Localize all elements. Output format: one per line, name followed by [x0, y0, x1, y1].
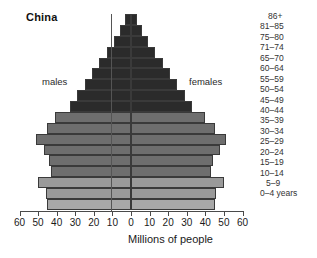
- age-group-label: 71–74: [246, 42, 316, 52]
- x-axis-tick-label: 50: [33, 217, 44, 228]
- age-group-label: 75–80: [246, 32, 316, 42]
- age-group-label: 0–4 years: [246, 188, 316, 198]
- bar-female: [131, 145, 220, 156]
- bar-female: [131, 79, 177, 90]
- bar-female: [131, 90, 185, 101]
- x-axis-tick-label: 20: [163, 217, 174, 228]
- age-group-label: 40–44: [246, 105, 316, 115]
- pyramid-row: [20, 68, 243, 79]
- pyramid-row: [20, 145, 243, 156]
- bar-male: [77, 90, 131, 101]
- age-group-label: 55–59: [246, 74, 316, 84]
- bar-male: [55, 112, 131, 123]
- x-axis-tick-label: 0: [128, 217, 134, 228]
- bar-female: [131, 25, 142, 36]
- bar-female: [131, 134, 226, 145]
- center-axis-line: [111, 14, 112, 211]
- bar-female: [131, 68, 170, 79]
- pyramid-row: [20, 101, 243, 112]
- pyramid-row: [20, 155, 243, 166]
- bar-female: [131, 123, 215, 134]
- age-group-label: 35–39: [246, 115, 316, 125]
- x-axis-tick-label: 50: [218, 217, 229, 228]
- age-group-label: 20–24: [246, 147, 316, 157]
- x-axis-tick: [187, 211, 188, 216]
- x-axis-title-text: Millions of people: [104, 233, 213, 245]
- pyramid-row: [20, 14, 243, 25]
- x-axis-tick-label: 10: [144, 217, 155, 228]
- bar-female: [131, 14, 137, 25]
- age-group-label: 81–85: [246, 21, 316, 31]
- age-group-label: 15–19: [246, 157, 316, 167]
- x-axis-tick: [57, 211, 58, 216]
- bar-male: [85, 79, 131, 90]
- age-group-labels: 86+81–8575–8071–7465–7060–6455–5950–5445…: [246, 11, 316, 199]
- x-axis-tick-label: 20: [88, 217, 99, 228]
- bar-female: [131, 188, 216, 199]
- pyramid-row: [20, 58, 243, 69]
- bar-female: [131, 166, 211, 177]
- x-axis-tick-label: 30: [181, 217, 192, 228]
- bar-male: [114, 36, 131, 47]
- x-axis-tick: [38, 211, 39, 216]
- bar-female: [131, 199, 215, 210]
- pyramid-row: [20, 166, 243, 177]
- bar-male: [47, 123, 131, 134]
- pyramid-row: [20, 199, 243, 210]
- age-group-label: 50–54: [246, 84, 316, 94]
- bar-female: [131, 36, 148, 47]
- x-axis-tick-label: 40: [51, 217, 62, 228]
- age-group-label: 30–34: [246, 126, 316, 136]
- age-group-label: 86+: [246, 11, 316, 21]
- pyramid-row: [20, 90, 243, 101]
- x-axis-tick: [205, 211, 206, 216]
- x-axis-tick-label: 40: [200, 217, 211, 228]
- x-axis-tick-label: 30: [70, 217, 81, 228]
- bar-male: [51, 166, 131, 177]
- bar-female: [131, 58, 163, 69]
- bar-female: [131, 155, 213, 166]
- bar-female: [131, 177, 224, 188]
- x-axis-tick: [131, 211, 132, 216]
- pyramid-row: [20, 112, 243, 123]
- bar-male: [70, 101, 131, 112]
- pyramid-row: [20, 36, 243, 47]
- pyramid-row: [20, 79, 243, 90]
- age-group-label: 25–29: [246, 136, 316, 146]
- x-axis-tick: [20, 211, 21, 216]
- bar-male: [120, 25, 131, 36]
- x-axis-tick-label: 10: [107, 217, 118, 228]
- bar-male: [36, 134, 131, 145]
- pyramid-row: [20, 188, 243, 199]
- pyramid-row: [20, 134, 243, 145]
- bar-female: [131, 101, 192, 112]
- bar-male: [47, 199, 131, 210]
- bar-male: [99, 58, 131, 69]
- age-group-label: 60–64: [246, 63, 316, 73]
- x-axis-tick: [224, 211, 225, 216]
- pyramid-row: [20, 123, 243, 134]
- x-axis-tick-label: 60: [237, 217, 248, 228]
- x-axis-tick-label: 60: [14, 217, 25, 228]
- x-axis-tick: [150, 211, 151, 216]
- bar-male: [44, 145, 131, 156]
- x-axis-tick: [112, 211, 113, 216]
- x-axis-tick: [243, 211, 244, 216]
- bar-female: [131, 112, 205, 123]
- bar-female: [131, 47, 155, 58]
- x-axis-tick: [168, 211, 169, 216]
- pyramid-row: [20, 177, 243, 188]
- population-pyramid-chart: China males females 86+81–8575–8071–7465…: [0, 0, 317, 258]
- pyramid-row: [20, 47, 243, 58]
- x-axis-tick: [94, 211, 95, 216]
- bar-male: [49, 155, 131, 166]
- pyramid-row: [20, 25, 243, 36]
- age-group-label: 65–70: [246, 53, 316, 63]
- x-axis-title: Millions of people: [0, 233, 317, 245]
- plot-area: [20, 14, 243, 210]
- bar-male: [38, 177, 131, 188]
- bar-male: [46, 188, 131, 199]
- age-group-label: 5–9: [246, 178, 316, 188]
- age-group-label: 10–14: [246, 168, 316, 178]
- x-axis-tick: [75, 211, 76, 216]
